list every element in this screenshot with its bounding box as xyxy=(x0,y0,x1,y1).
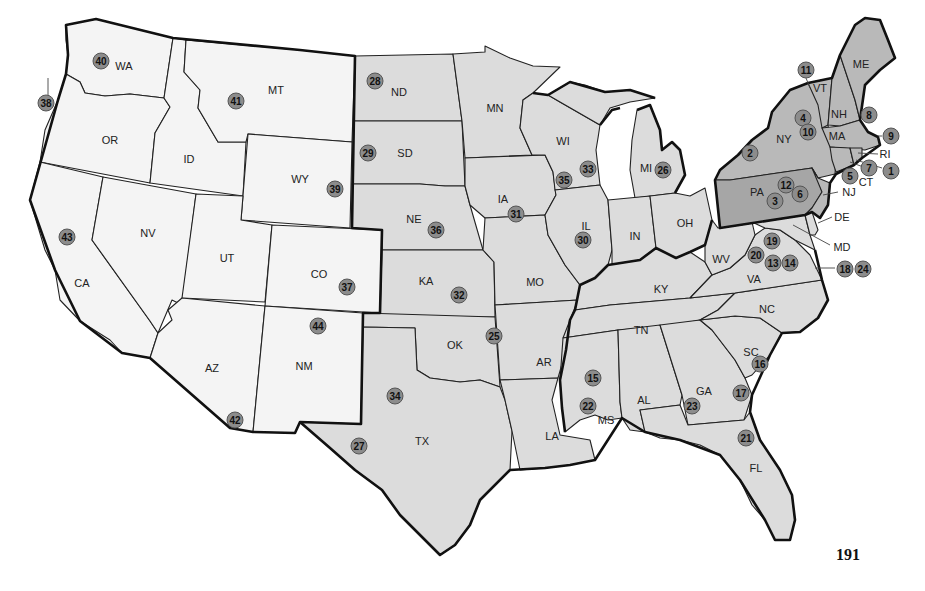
state-label-nc: NC xyxy=(759,303,775,315)
state-label-ky: KY xyxy=(654,283,669,295)
state-label-nv: NV xyxy=(140,227,156,239)
marker-40: 40 xyxy=(93,53,109,69)
marker-43: 43 xyxy=(59,229,75,245)
marker-44: 44 xyxy=(310,318,326,334)
marker-number: 28 xyxy=(369,76,381,87)
marker-38: 38 xyxy=(38,95,54,111)
marker-number: 23 xyxy=(686,401,698,412)
state-label-sc: SC xyxy=(743,346,758,358)
callout-label-ri: RI xyxy=(880,148,891,160)
state-label-co: CO xyxy=(311,268,328,280)
state-label-ok: OK xyxy=(447,339,464,351)
marker-36: 36 xyxy=(428,222,444,238)
us-map: WAORCAIDNVMTWYUTCOAZNMNDSDNEKAOKTXMNIAMO… xyxy=(0,0,925,591)
marker-number: 16 xyxy=(754,359,766,370)
marker-25: 25 xyxy=(486,328,502,344)
marker-number: 34 xyxy=(389,391,401,402)
state-label-mo: MO xyxy=(526,276,544,288)
marker-number: 26 xyxy=(657,165,669,176)
marker-20: 20 xyxy=(748,247,764,263)
state-label-vt: VT xyxy=(813,82,827,94)
marker-number: 24 xyxy=(857,264,869,275)
state-label-or: OR xyxy=(102,134,119,146)
marker-number: 19 xyxy=(766,236,778,247)
callout-label-nj: NJ xyxy=(842,186,855,198)
state-label-al: AL xyxy=(637,394,650,406)
marker-26: 26 xyxy=(655,162,671,178)
state-label-wa: WA xyxy=(115,60,133,72)
marker-number: 18 xyxy=(839,264,851,275)
marker-21: 21 xyxy=(738,430,754,446)
marker-number: 41 xyxy=(230,96,242,107)
marker-8: 8 xyxy=(861,107,877,123)
marker-29: 29 xyxy=(360,145,376,161)
marker-number: 44 xyxy=(312,321,324,332)
marker-number: 1 xyxy=(888,166,894,177)
marker-number: 10 xyxy=(802,127,814,138)
marker-number: 2 xyxy=(747,148,753,159)
marker-number: 21 xyxy=(740,433,752,444)
state-label-nh: NH xyxy=(831,108,847,120)
state-label-nd: ND xyxy=(391,86,407,98)
state-label-ar: AR xyxy=(536,356,551,368)
marker-number: 4 xyxy=(800,113,806,124)
callout-label-de: DE xyxy=(834,211,849,223)
marker-number: 39 xyxy=(329,184,341,195)
marker-number: 5 xyxy=(847,171,853,182)
marker-33: 33 xyxy=(580,161,596,177)
callout-label-ct: CT xyxy=(859,176,874,188)
marker-number: 17 xyxy=(735,388,747,399)
marker-35: 35 xyxy=(556,172,572,188)
state-label-ga: GA xyxy=(696,385,713,397)
marker-11: 11 xyxy=(798,62,814,78)
marker-number: 3 xyxy=(772,196,778,207)
marker-34: 34 xyxy=(387,388,403,404)
marker-number: 42 xyxy=(229,415,241,426)
marker-number: 9 xyxy=(888,131,894,142)
marker-number: 12 xyxy=(780,180,792,191)
marker-16: 16 xyxy=(752,356,768,372)
marker-10: 10 xyxy=(800,124,816,140)
marker-number: 36 xyxy=(430,225,442,236)
marker-27: 27 xyxy=(351,438,367,454)
marker-6: 6 xyxy=(792,186,808,202)
state-label-ca: CA xyxy=(74,277,90,289)
state-label-wy: WY xyxy=(291,173,309,185)
marker-1: 1 xyxy=(883,163,899,179)
state-label-mt: MT xyxy=(268,84,284,96)
marker-17: 17 xyxy=(733,385,749,401)
marker-number: 22 xyxy=(582,401,594,412)
state-fl xyxy=(640,405,795,540)
state-label-ny: NY xyxy=(776,133,792,145)
state-label-ne: NE xyxy=(406,213,421,225)
marker-number: 29 xyxy=(362,148,374,159)
marker-5: 5 xyxy=(842,168,858,184)
marker-number: 33 xyxy=(582,164,594,175)
state-label-mi: MI xyxy=(640,162,652,174)
marker-number: 43 xyxy=(61,232,73,243)
marker-number: 6 xyxy=(797,189,803,200)
marker-number: 37 xyxy=(341,282,353,293)
state-label-ka: KA xyxy=(419,275,434,287)
marker-number: 13 xyxy=(767,258,779,269)
marker-number: 25 xyxy=(488,331,500,342)
state-label-wi: WI xyxy=(556,135,569,147)
marker-30: 30 xyxy=(575,232,591,248)
state-ks xyxy=(380,250,495,317)
state-label-il: IL xyxy=(581,220,590,232)
marker-22: 22 xyxy=(580,398,596,414)
marker-3: 3 xyxy=(767,193,783,209)
marker-14: 14 xyxy=(782,255,798,271)
marker-number: 8 xyxy=(866,110,872,121)
state-label-az: AZ xyxy=(205,362,219,374)
marker-32: 32 xyxy=(451,287,467,303)
state-label-me: ME xyxy=(853,58,870,70)
marker-15: 15 xyxy=(585,370,601,386)
marker-9: 9 xyxy=(883,128,899,144)
marker-number: 38 xyxy=(40,98,52,109)
state-label-in: IN xyxy=(630,230,641,242)
marker-number: 30 xyxy=(577,235,589,246)
marker-number: 14 xyxy=(784,258,796,269)
page-number: 191 xyxy=(836,546,860,564)
marker-37: 37 xyxy=(339,279,355,295)
